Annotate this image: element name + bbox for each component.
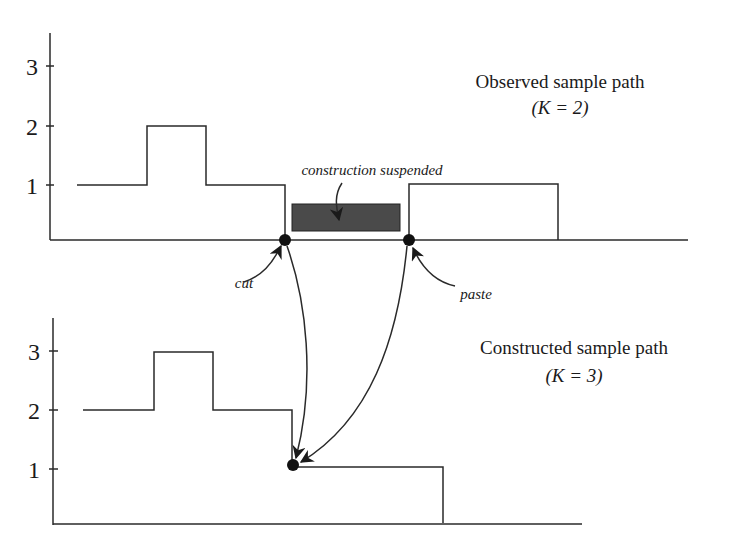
- cut-to-constructed-arrow: [287, 246, 307, 458]
- top-panel: 3 2 1 Observed sample path (K = 2) const…: [26, 33, 688, 302]
- junction-point: [287, 459, 299, 471]
- cut-point: [279, 234, 291, 246]
- observed-path-before-cut: [77, 126, 285, 240]
- top-tick-label-3: 3: [26, 54, 38, 80]
- paste-point: [403, 234, 415, 246]
- suspended-block: [292, 204, 400, 231]
- paste-to-constructed-arrow: [301, 246, 407, 462]
- annotation-paste: paste: [459, 286, 492, 302]
- constructed-path-first: [83, 352, 292, 462]
- bottom-title-line1: Constructed sample path: [480, 337, 668, 358]
- constructed-path-second: [296, 467, 443, 523]
- bottom-tick-label-2: 2: [28, 398, 40, 424]
- bottom-panel: 3 2 1 Constructed sample path (K = 3): [28, 318, 668, 525]
- top-tick-label-2: 2: [26, 114, 38, 140]
- top-tick-label-1: 1: [26, 173, 38, 199]
- bottom-title-line2: (K = 3): [545, 365, 602, 387]
- annotation-construction-suspended: construction suspended: [301, 162, 443, 178]
- top-title-line1: Observed sample path: [476, 71, 645, 92]
- paste-arrow: [413, 248, 455, 286]
- annotation-cut: cut: [235, 275, 254, 291]
- top-title-line2: (K = 2): [531, 97, 588, 119]
- bottom-tick-label-1: 1: [28, 457, 40, 483]
- sample-path-diagram: 3 2 1 Observed sample path (K = 2) const…: [0, 0, 737, 552]
- bottom-tick-label-3: 3: [28, 339, 40, 365]
- observed-path-after-paste: [409, 184, 558, 240]
